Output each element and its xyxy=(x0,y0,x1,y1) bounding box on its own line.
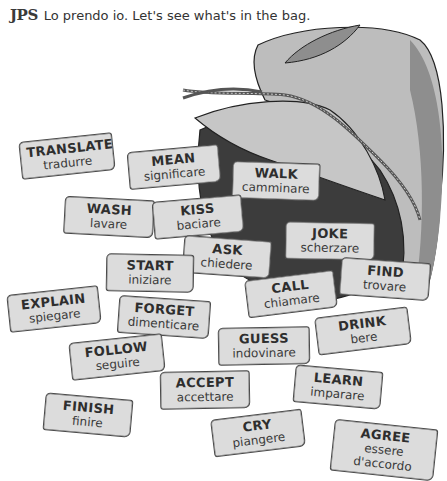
italian-word: iniziare xyxy=(113,272,187,287)
english-word: ACCEPT xyxy=(167,374,243,390)
dialogue-text: Lo prendo io. Let's see what's in the ba… xyxy=(44,8,311,23)
word-card-guess[interactable]: GUESS indovinare xyxy=(218,326,311,366)
word-card-find[interactable]: FIND trovare xyxy=(339,257,431,301)
word-card-mean[interactable]: MEAN significare xyxy=(127,144,222,190)
english-word: START xyxy=(113,257,187,273)
english-word: JOKE xyxy=(292,225,368,241)
word-card-accept[interactable]: ACCEPT accettare xyxy=(160,370,251,410)
word-card-kiss[interactable]: KISS baciare xyxy=(152,194,245,240)
italian-word: accettare xyxy=(167,389,243,404)
word-card-ask[interactable]: ASK chiedere xyxy=(182,235,272,279)
italian-word: scherzare xyxy=(292,240,368,255)
word-card-follow[interactable]: FOLLOW seguire xyxy=(68,333,165,381)
word-card-cry[interactable]: CRY piangere xyxy=(210,409,306,458)
word-card-agree[interactable]: AGREE essere d'accordo xyxy=(330,419,439,481)
italian-word: indovinare xyxy=(225,345,303,360)
word-card-walk[interactable]: WALK camminare xyxy=(231,160,320,201)
word-card-forget[interactable]: FORGET dimenticare xyxy=(117,295,211,339)
word-card-joke[interactable]: JOKE scherzare xyxy=(285,221,376,261)
italian-word: lavare xyxy=(70,215,147,233)
word-card-drink[interactable]: DRINK bere xyxy=(314,306,412,355)
word-card-start[interactable]: START iniziare xyxy=(106,253,195,293)
word-card-learn[interactable]: LEARN imparare xyxy=(293,364,384,410)
word-card-explain[interactable]: EXPLAIN spiegare xyxy=(6,285,101,332)
word-card-wash[interactable]: WASH lavare xyxy=(63,196,155,239)
italian-word: camminare xyxy=(239,180,313,197)
english-word: GUESS xyxy=(225,330,303,346)
speaker-logo: JPS xyxy=(10,6,38,24)
word-card-finish[interactable]: FINISH finire xyxy=(43,392,134,438)
dialogue-line: JPS Lo prendo io. Let's see what's in th… xyxy=(10,4,310,26)
word-card-translate[interactable]: TRANSLATE tradurre xyxy=(18,132,115,180)
